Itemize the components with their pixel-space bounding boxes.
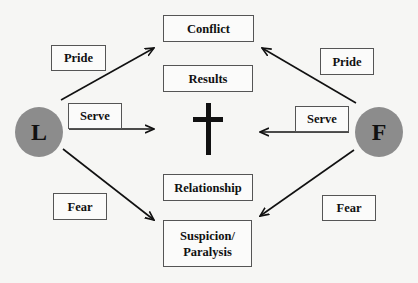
- fear-right-label: Fear: [322, 195, 376, 221]
- results-label: Results: [189, 71, 228, 87]
- serve-right-label: Serve: [295, 106, 349, 132]
- conflict-box: Conflict: [163, 15, 254, 42]
- paralysis-label: Paralysis: [183, 244, 232, 260]
- results-box: Results: [163, 65, 253, 92]
- serve-right-text: Serve: [307, 111, 337, 127]
- suspicion-paralysis-box: Suspicion/ Paralysis: [163, 220, 252, 267]
- suspicion-label: Suspicion/: [180, 228, 235, 244]
- conflict-label: Conflict: [187, 21, 230, 37]
- leader-node: L: [15, 107, 63, 157]
- follower-node: F: [355, 107, 403, 157]
- follower-label: F: [372, 119, 387, 146]
- serve-left-label: Serve: [68, 103, 122, 129]
- fear-left-text: Fear: [68, 199, 93, 215]
- fear-right-text: Fear: [337, 200, 362, 216]
- fear-left-label: Fear: [53, 193, 107, 220]
- pride-left-text: Pride: [64, 50, 93, 66]
- pride-right-label: Pride: [320, 48, 374, 75]
- leader-label: L: [31, 119, 47, 146]
- relationship-label: Relationship: [174, 180, 241, 196]
- pride-right-text: Pride: [332, 54, 361, 70]
- serve-left-text: Serve: [80, 108, 110, 124]
- relationship-box: Relationship: [163, 174, 253, 201]
- pride-left-label: Pride: [51, 45, 106, 71]
